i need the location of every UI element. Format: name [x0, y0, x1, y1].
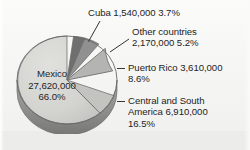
label-other-countries: Other countries 2,170,000 5.2%	[132, 26, 199, 49]
label-central-south-america-line3: 16.5%	[128, 118, 208, 129]
label-mexico-line3: 66.0%	[14, 91, 90, 103]
pie-chart-figure: Cuba 1,540,000 3.7% Other countries 2,17…	[0, 0, 250, 150]
label-other-countries-line1: Other countries	[132, 26, 199, 37]
label-mexico-line2: 27,620,000	[14, 80, 90, 92]
leader-dash-central-south-america	[117, 101, 125, 102]
paper-edge-right	[244, 0, 250, 150]
label-central-south-america: Central and South America 6,910,000 16.5…	[128, 95, 208, 129]
label-puerto-rico-line2: 8.6%	[128, 73, 222, 84]
label-puerto-rico: Puerto Rico 3,610,000 8.6%	[128, 62, 222, 85]
label-mexico: Mexico 27,620,000 66.0%	[14, 68, 90, 103]
paper-edge-left	[0, 0, 4, 150]
label-central-south-america-line2: America 6,910,000	[128, 106, 208, 117]
label-mexico-line1: Mexico	[14, 68, 90, 80]
label-puerto-rico-line1: Puerto Rico 3,610,000	[128, 62, 222, 73]
label-cuba-line1: Cuba 1,540,000 3.7%	[88, 7, 180, 18]
label-cuba: Cuba 1,540,000 3.7%	[88, 7, 180, 18]
label-central-south-america-line1: Central and South	[128, 95, 208, 106]
label-other-countries-line2: 2,170,000 5.2%	[132, 37, 199, 48]
leader-dash-puerto-rico	[117, 68, 125, 69]
